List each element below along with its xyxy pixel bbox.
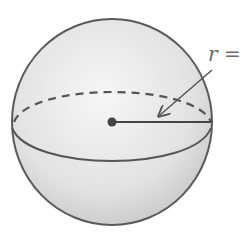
center-point [108,118,117,127]
equals-sign: = [224,42,241,66]
sphere-diagram [0,0,245,237]
radius-label: r [208,42,218,66]
